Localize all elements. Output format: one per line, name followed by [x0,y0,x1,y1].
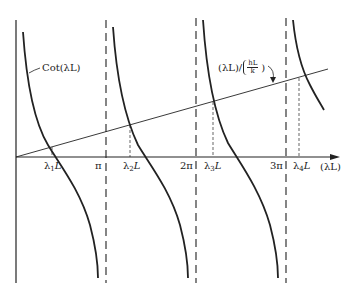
root-4-tail: L [304,160,311,171]
line-label-fraction: hL k [243,60,261,75]
tick-label-3pi: 3π [270,161,283,171]
root-1-tail: L [55,160,62,171]
root-label-1: λ1L [44,161,61,173]
line-label-denominator: k [251,68,255,75]
cot-curve-label: Cot(λL) [42,63,80,73]
cot-branch-3 [203,20,278,278]
linear-function-line [16,69,328,157]
cot-branch-4 [293,20,324,110]
line-label-close-paren: ) [261,63,265,73]
cot-label-leader [29,68,40,73]
root-label-4: λ4L [293,161,310,173]
root-3-tail: L [215,160,222,171]
x-axis-arrow-icon [330,154,340,160]
line-label-arrow-icon [270,77,276,83]
root-2-tail: L [134,160,141,171]
line-label-left: (λL)/ [218,63,242,73]
root-label-2: λ2L [123,161,140,173]
x-axis-label: (λL) [320,162,341,172]
root-label-3: λ3L [204,161,221,173]
cot-branch-2 [113,27,188,278]
cot-intersection-diagram [0,0,350,294]
line-function-label: (λL)/ hL k ) [218,60,265,75]
tick-label-pi: π [95,161,102,171]
tick-label-2pi: 2π [180,161,193,171]
